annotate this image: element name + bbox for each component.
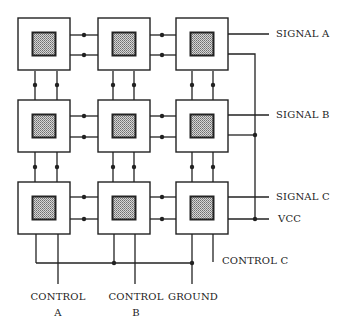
control-a-letter: A (53, 307, 62, 318)
control-a-label: CONTROL (30, 291, 85, 302)
cell-core-square (191, 33, 214, 56)
cell-r2-c3 (176, 100, 228, 152)
cell-core-square (113, 115, 136, 138)
cell-core-square (33, 33, 56, 56)
cell-core-square (33, 197, 56, 220)
ground-label: GROUND (168, 291, 218, 302)
cell-r1-c2 (98, 18, 150, 70)
cell-r3-c1 (18, 182, 70, 234)
control-b-letter: B (132, 307, 140, 318)
signal-a-label: SIGNAL A (276, 28, 330, 39)
vcc-rail (228, 54, 255, 219)
cell-core-square (191, 197, 214, 220)
cell-core-square (113, 197, 136, 220)
cell-core-square (113, 33, 136, 56)
cell-r1-c3 (176, 18, 228, 70)
cell-grid (18, 18, 228, 234)
cell-r3-c3 (176, 182, 228, 234)
cell-r3-c2 (98, 182, 150, 234)
cell-core-square (191, 115, 214, 138)
signal-c-label: SIGNAL C (276, 191, 330, 202)
control-c-label: CONTROL C (222, 255, 288, 266)
wires (35, 34, 269, 284)
cell-core-square (33, 115, 56, 138)
cell-r1-c1 (18, 18, 70, 70)
cell-r2-c1 (18, 100, 70, 152)
control-b-label: CONTROL (108, 291, 163, 302)
signal-b-label: SIGNAL B (276, 109, 330, 120)
cell-array-diagram: SIGNAL A SIGNAL B SIGNAL C VCC CONTROL C… (0, 0, 338, 332)
cell-r2-c2 (98, 100, 150, 152)
vcc-label: VCC (277, 213, 301, 224)
